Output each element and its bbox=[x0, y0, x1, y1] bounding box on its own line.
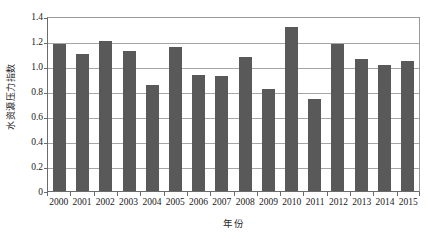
x-axis-tick-mark bbox=[397, 192, 420, 196]
x-axis-tick-label: 2001 bbox=[70, 197, 93, 213]
x-axis-tick-label: 2000 bbox=[47, 197, 70, 213]
x-axis-tick-label: 2012 bbox=[327, 197, 350, 213]
x-axis-tick-mark bbox=[187, 192, 210, 196]
bar bbox=[378, 65, 391, 191]
x-axis-tick-label: 2008 bbox=[234, 197, 257, 213]
y-axis-tick-label: 0 bbox=[38, 187, 43, 197]
bar-slot bbox=[396, 18, 419, 191]
x-axis-tick-label: 2004 bbox=[140, 197, 163, 213]
y-axis-tick-label: 0.8 bbox=[31, 87, 43, 97]
bar-slot bbox=[48, 18, 71, 191]
bar bbox=[285, 27, 298, 191]
x-axis-tick-label: 2002 bbox=[94, 197, 117, 213]
x-axis-tick-label: 2007 bbox=[210, 197, 233, 213]
bar-slot bbox=[71, 18, 94, 191]
bar bbox=[215, 76, 228, 191]
x-axis-tick-mark bbox=[70, 192, 93, 196]
bar-chart: 水资源压力指数 00.20.40.60.81.01.21.4 200020012… bbox=[0, 0, 428, 239]
bar bbox=[123, 51, 136, 191]
y-axis-tick-label: 1.4 bbox=[31, 12, 43, 22]
y-axis-title: 水资源压力指数 bbox=[1, 0, 19, 192]
x-axis-tick-label: 2014 bbox=[373, 197, 396, 213]
bar bbox=[331, 44, 344, 192]
bar-slot bbox=[280, 18, 303, 191]
bar-slot bbox=[118, 18, 141, 191]
y-axis-tick-label: 0.4 bbox=[31, 137, 43, 147]
bar bbox=[355, 59, 368, 192]
x-axis-tick-label: 2015 bbox=[397, 197, 420, 213]
x-axis-tick-mark bbox=[373, 192, 396, 196]
x-axis-tick-label: 2005 bbox=[164, 197, 187, 213]
bar-slot bbox=[187, 18, 210, 191]
bar-slot bbox=[234, 18, 257, 191]
bar-slot bbox=[94, 18, 117, 191]
x-axis-tick-label: 2010 bbox=[280, 197, 303, 213]
x-axis-tick-labels: 2000200120022003200420052006200720082009… bbox=[47, 197, 420, 213]
bar bbox=[401, 61, 414, 191]
x-axis-tick-mark bbox=[234, 192, 257, 196]
y-axis-tick-labels: 00.20.40.60.81.01.21.4 bbox=[18, 17, 47, 192]
bar bbox=[76, 54, 89, 192]
bar-slot bbox=[326, 18, 349, 191]
x-axis-tick-mark bbox=[280, 192, 303, 196]
y-axis-tick-label: 0.6 bbox=[31, 112, 43, 122]
bar-slot bbox=[349, 18, 372, 191]
x-axis-tick-label: 2013 bbox=[350, 197, 373, 213]
x-axis-title: 年份 bbox=[47, 216, 420, 230]
x-axis-tick-mark bbox=[210, 192, 233, 196]
bar bbox=[169, 47, 182, 191]
x-axis-tick-mark bbox=[94, 192, 117, 196]
bar bbox=[53, 44, 66, 192]
y-axis-title-text: 水资源压力指数 bbox=[4, 63, 17, 130]
bar bbox=[262, 89, 275, 192]
bar bbox=[308, 99, 321, 192]
x-axis-tick-label: 2006 bbox=[187, 197, 210, 213]
bar-slot bbox=[373, 18, 396, 191]
bar-slot bbox=[303, 18, 326, 191]
bar bbox=[239, 57, 252, 191]
bar-slot bbox=[257, 18, 280, 191]
x-axis-tick-mark bbox=[140, 192, 163, 196]
x-axis-tick-label: 2003 bbox=[117, 197, 140, 213]
plot-area bbox=[47, 17, 420, 192]
bar bbox=[192, 75, 205, 191]
y-axis-tick-label: 1.2 bbox=[31, 37, 43, 47]
bar bbox=[99, 41, 112, 191]
y-axis-tick-label: 1.0 bbox=[31, 62, 43, 72]
bar-series bbox=[48, 18, 419, 191]
bar-slot bbox=[141, 18, 164, 191]
bar bbox=[146, 85, 159, 191]
x-axis-tick-mark bbox=[117, 192, 140, 196]
x-axis-tick-marks bbox=[47, 192, 420, 196]
x-axis-tick-mark bbox=[350, 192, 373, 196]
bar-slot bbox=[210, 18, 233, 191]
x-axis-tick-mark bbox=[164, 192, 187, 196]
y-axis-tick-label: 0.2 bbox=[31, 162, 43, 172]
x-axis-tick-mark bbox=[327, 192, 350, 196]
bar-slot bbox=[164, 18, 187, 191]
x-axis-tick-label: 2011 bbox=[303, 197, 326, 213]
x-axis-tick-label: 2009 bbox=[257, 197, 280, 213]
x-axis-tick-mark bbox=[303, 192, 326, 196]
x-axis-tick-mark bbox=[47, 192, 70, 196]
x-axis-tick-mark bbox=[257, 192, 280, 196]
